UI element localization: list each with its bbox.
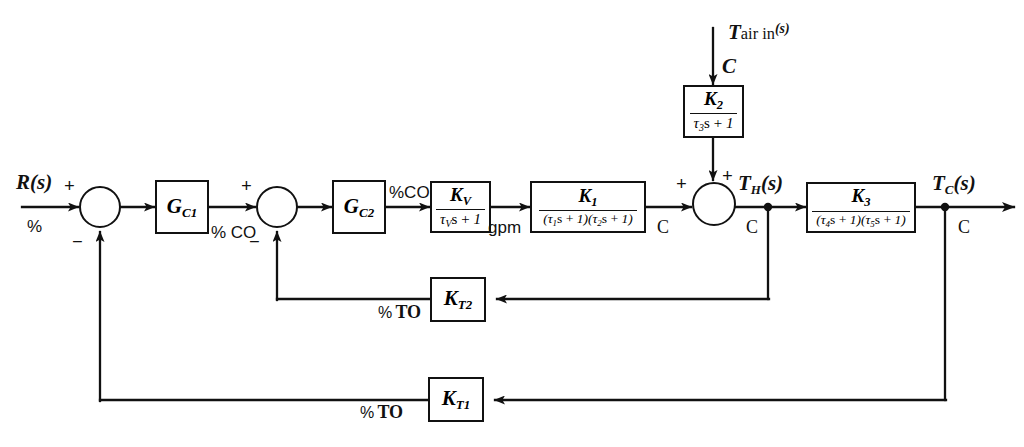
- block-transmitter-outer[interactable]: KT1: [428, 377, 484, 422]
- label-inner-output: TH(s): [738, 173, 783, 196]
- valve-transfer-function: KV τVs + 1: [436, 185, 485, 230]
- label-valve-output-unit: gpm: [488, 219, 521, 236]
- takeoff-node-tc: [941, 203, 949, 211]
- label-process-inner-output-unit: C: [657, 218, 669, 236]
- label-controller2-output-unit: %CO: [389, 184, 430, 201]
- label-inner-feedback-unit: % TO: [378, 303, 421, 321]
- valve-denominator: τVs + 1: [436, 210, 485, 230]
- block-process-outer[interactable]: K3 (τ4s + 1)(τ5s + 1): [806, 182, 916, 233]
- block-diagram-canvas: + − + − + + GC1 GC2 KV τVs + 1 K1 (τ1s +…: [0, 0, 1024, 447]
- process-inner-numerator: K1: [539, 186, 637, 211]
- label-outer-output-unit: C: [958, 218, 970, 236]
- process-outer-transfer-function: K3 (τ4s + 1)(τ5s + 1): [812, 186, 910, 229]
- block-valve[interactable]: KV τVs + 1: [430, 181, 491, 233]
- summing-junction-3: [692, 182, 736, 226]
- disturbance-transfer-function: K2 τ3s + 1: [690, 89, 738, 134]
- disturbance-numerator: K2: [690, 89, 738, 114]
- valve-numerator: KV: [436, 185, 485, 210]
- summer3-plus-left-sign: +: [676, 174, 687, 193]
- label-disturbance: Tair in(s): [728, 22, 790, 43]
- label-inner-output-unit: C: [746, 218, 758, 236]
- label-outer-feedback-unit: % TO: [360, 403, 403, 421]
- summer1-plus-sign: +: [64, 176, 75, 195]
- summer3-plus-top-sign: +: [722, 166, 733, 185]
- label-setpoint-unit: %: [27, 218, 42, 235]
- block-transmitter-inner[interactable]: KT2: [430, 277, 486, 322]
- block-process-inner[interactable]: K1 (τ1s + 1)(τ2s + 1): [530, 181, 646, 233]
- transmitter-inner-label: KT2: [444, 287, 472, 312]
- process-outer-denominator: (τ4s + 1)(τ5s + 1): [812, 212, 910, 229]
- takeoff-node-th: [764, 203, 772, 211]
- transmitter-outer-label: KT1: [442, 387, 470, 412]
- summing-junction-1: [79, 186, 121, 228]
- block-controller2[interactable]: GC2: [332, 180, 386, 234]
- process-inner-denominator: (τ1s + 1)(τ2s + 1): [539, 211, 637, 228]
- summing-junction-2: [256, 186, 298, 228]
- process-outer-numerator: K3: [812, 186, 910, 211]
- controller2-label: GC2: [344, 195, 374, 220]
- summer2-plus-sign: +: [241, 176, 252, 195]
- block-controller1[interactable]: GC1: [155, 180, 209, 234]
- label-setpoint: R(s): [16, 172, 52, 193]
- label-controller1-output-unit: % CO: [211, 224, 256, 241]
- summer1-minus-sign: −: [72, 232, 83, 251]
- process-inner-transfer-function: K1 (τ1s + 1)(τ2s + 1): [539, 186, 637, 229]
- label-disturbance-unit: C: [722, 56, 736, 77]
- label-outer-output: TC(s): [932, 173, 976, 196]
- disturbance-denominator: τ3s + 1: [690, 114, 738, 134]
- block-disturbance-transfer-function[interactable]: K2 τ3s + 1: [683, 85, 744, 138]
- controller1-label: GC1: [167, 195, 197, 220]
